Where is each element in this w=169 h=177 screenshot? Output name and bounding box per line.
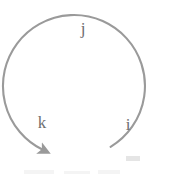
node-label-j: j <box>72 20 94 37</box>
arc-diagram-figure: j k i <box>0 0 169 177</box>
node-label-i: i <box>118 116 138 133</box>
node-label-k: k <box>31 114 53 131</box>
